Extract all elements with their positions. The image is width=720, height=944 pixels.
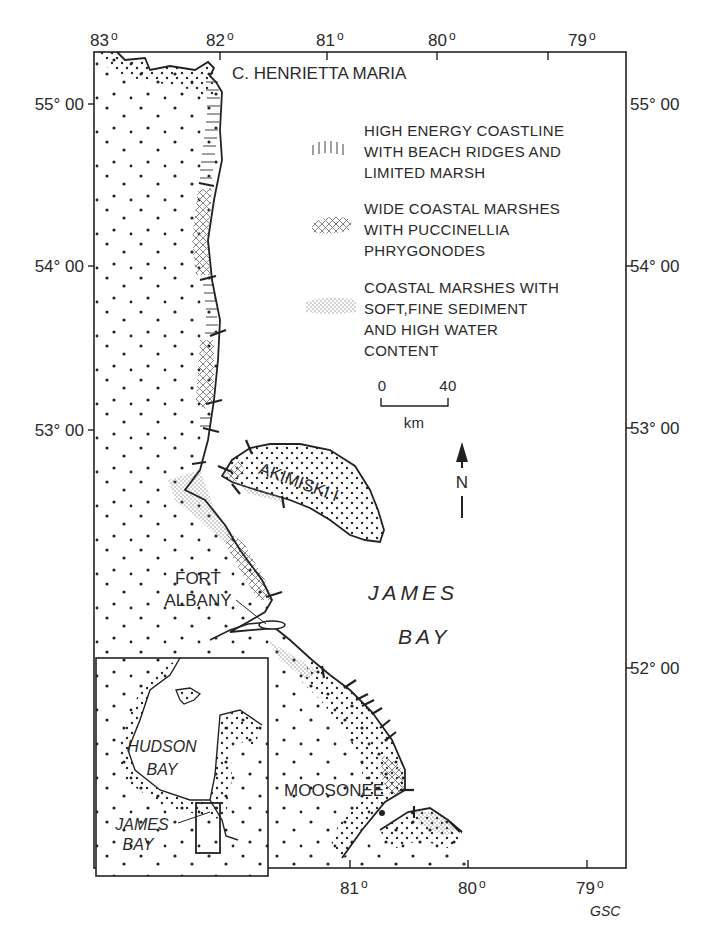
inset-map: HUDSON BAY JAMES BAY (96, 658, 268, 876)
inset-james-label-1: JAMES (114, 816, 169, 833)
lat-label-55-right: 55° 00 (630, 95, 679, 114)
latitude-labels-right: 55° 00 54° 00 53° 00 52° 00 (630, 95, 679, 678)
lon-label-82-top: 82o (206, 29, 234, 50)
lon-label-79-top: 79o (568, 29, 596, 50)
scale-start-label: 0 (378, 377, 387, 394)
james-bay-label-1: JAMES (367, 581, 458, 604)
legend-item-3-line-4: CONTENT (364, 342, 439, 359)
legend-item-2-line-1: WIDE COASTAL MARSHES (364, 200, 560, 217)
legend-stipple-symbol (306, 297, 356, 314)
legend: HIGH ENERGY COASTLINE WITH BEACH RIDGES … (306, 122, 564, 359)
lat-label-55-left: 55° 00 (35, 95, 84, 114)
lon-label-80-bottom: 80o (458, 877, 486, 898)
scale-unit-label: km (404, 414, 425, 431)
cape-henrietta-maria-label: C. HENRIETTA MARIA (232, 64, 407, 83)
lon-label-81-bottom: 81o (340, 877, 368, 898)
lon-label-83-top: 83o (90, 29, 118, 50)
james-bay-coastal-map: HUDSON BAY JAMES BAY 83o 82o 81o 80o 79o… (0, 0, 720, 944)
inset-james-label-2: BAY (123, 836, 155, 853)
lat-label-53-right: 53° 00 (630, 419, 679, 438)
north-arrow-icon (456, 442, 468, 462)
fort-albany-label-1: FORT (175, 569, 221, 588)
north-label: N (456, 473, 468, 492)
legend-crosshatch-symbol (312, 217, 352, 234)
scale-end-label: 40 (439, 377, 456, 394)
legend-item-1-line-1: HIGH ENERGY COASTLINE (364, 122, 564, 139)
legend-item-3-line-1: COASTAL MARSHES WITH (364, 279, 559, 296)
credit-label: GSC (590, 903, 621, 919)
legend-item-3-line-2: SOFT,FINE SEDIMENT (364, 300, 528, 317)
longitude-labels-bottom: 81o 80o 79o (340, 877, 604, 898)
lat-label-52-right: 52° 00 (630, 659, 679, 678)
latitude-labels-left: 55° 00 54° 00 53° 00 (35, 95, 84, 440)
legend-item-2-line-2: WITH PUCCINELLIA (364, 221, 510, 238)
legend-item-1-line-3: LIMITED MARSH (364, 164, 485, 181)
north-arrow: N (456, 442, 468, 518)
legend-item-3-line-3: AND HIGH WATER (364, 321, 498, 338)
lat-label-54-right: 54° 00 (630, 257, 679, 276)
moosonee-town-marker (379, 810, 385, 816)
lon-label-81-top: 81o (316, 29, 344, 50)
legend-item-2-line-3: PHRYGONODES (364, 242, 485, 259)
albany-island (259, 621, 285, 629)
scale-bar: 0 40 km (378, 377, 457, 431)
moosonee-label: MOOSONEE (284, 781, 384, 800)
fort-albany-label-2: ALBANY (164, 591, 231, 610)
lon-label-79-bottom: 79o (576, 877, 604, 898)
lon-label-80-top: 80o (428, 29, 456, 50)
inset-hudson-label-2: BAY (147, 761, 179, 778)
james-bay-label-2: BAY (398, 625, 450, 648)
lat-label-54-left: 54° 00 (35, 257, 84, 276)
legend-hatched-symbol (313, 141, 343, 155)
inset-hudson-label-1: HUDSON (127, 738, 197, 755)
legend-item-1-line-2: WITH BEACH RIDGES AND (364, 143, 561, 160)
longitude-labels-top: 83o 82o 81o 80o 79o (90, 29, 596, 50)
lat-label-53-left: 53° 00 (35, 421, 84, 440)
